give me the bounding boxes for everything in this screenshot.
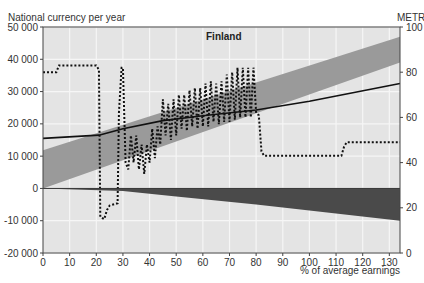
svg-text:30 000: 30 000	[7, 86, 38, 97]
right-axis-label: METR	[397, 12, 424, 23]
svg-text:60: 60	[406, 112, 418, 123]
svg-text:30: 30	[117, 257, 129, 268]
svg-text:-20 000: -20 000	[4, 248, 38, 259]
svg-text:80: 80	[406, 67, 418, 78]
svg-text:70: 70	[224, 257, 236, 268]
chart-title: Finland	[206, 31, 242, 42]
svg-text:20: 20	[91, 257, 103, 268]
svg-text:40: 40	[144, 257, 156, 268]
svg-text:60: 60	[197, 257, 209, 268]
svg-text:0: 0	[406, 248, 412, 259]
svg-text:0: 0	[40, 257, 46, 268]
x-axis-label: % of average earnings	[300, 265, 400, 276]
svg-text:20 000: 20 000	[7, 118, 38, 129]
svg-text:0: 0	[32, 183, 38, 194]
svg-text:40 000: 40 000	[7, 54, 38, 65]
svg-text:90: 90	[277, 257, 289, 268]
svg-text:100: 100	[406, 22, 423, 33]
svg-text:50: 50	[171, 257, 183, 268]
left-axis-ticks: 50 00040 00030 00020 00010 0000-10 000-2…	[4, 22, 43, 259]
svg-text:50 000: 50 000	[7, 22, 38, 33]
svg-text:10: 10	[64, 257, 76, 268]
svg-text:80: 80	[251, 257, 263, 268]
left-axis-label: National currency per year	[8, 12, 126, 23]
svg-text:20: 20	[406, 202, 418, 213]
svg-text:-10 000: -10 000	[4, 215, 38, 226]
finland-metr-chart: 50 00040 00030 00020 00010 0000-10 000-2…	[0, 0, 424, 283]
right-axis-ticks: 100806040200	[400, 22, 423, 259]
svg-text:40: 40	[406, 157, 418, 168]
svg-text:10 000: 10 000	[7, 151, 38, 162]
